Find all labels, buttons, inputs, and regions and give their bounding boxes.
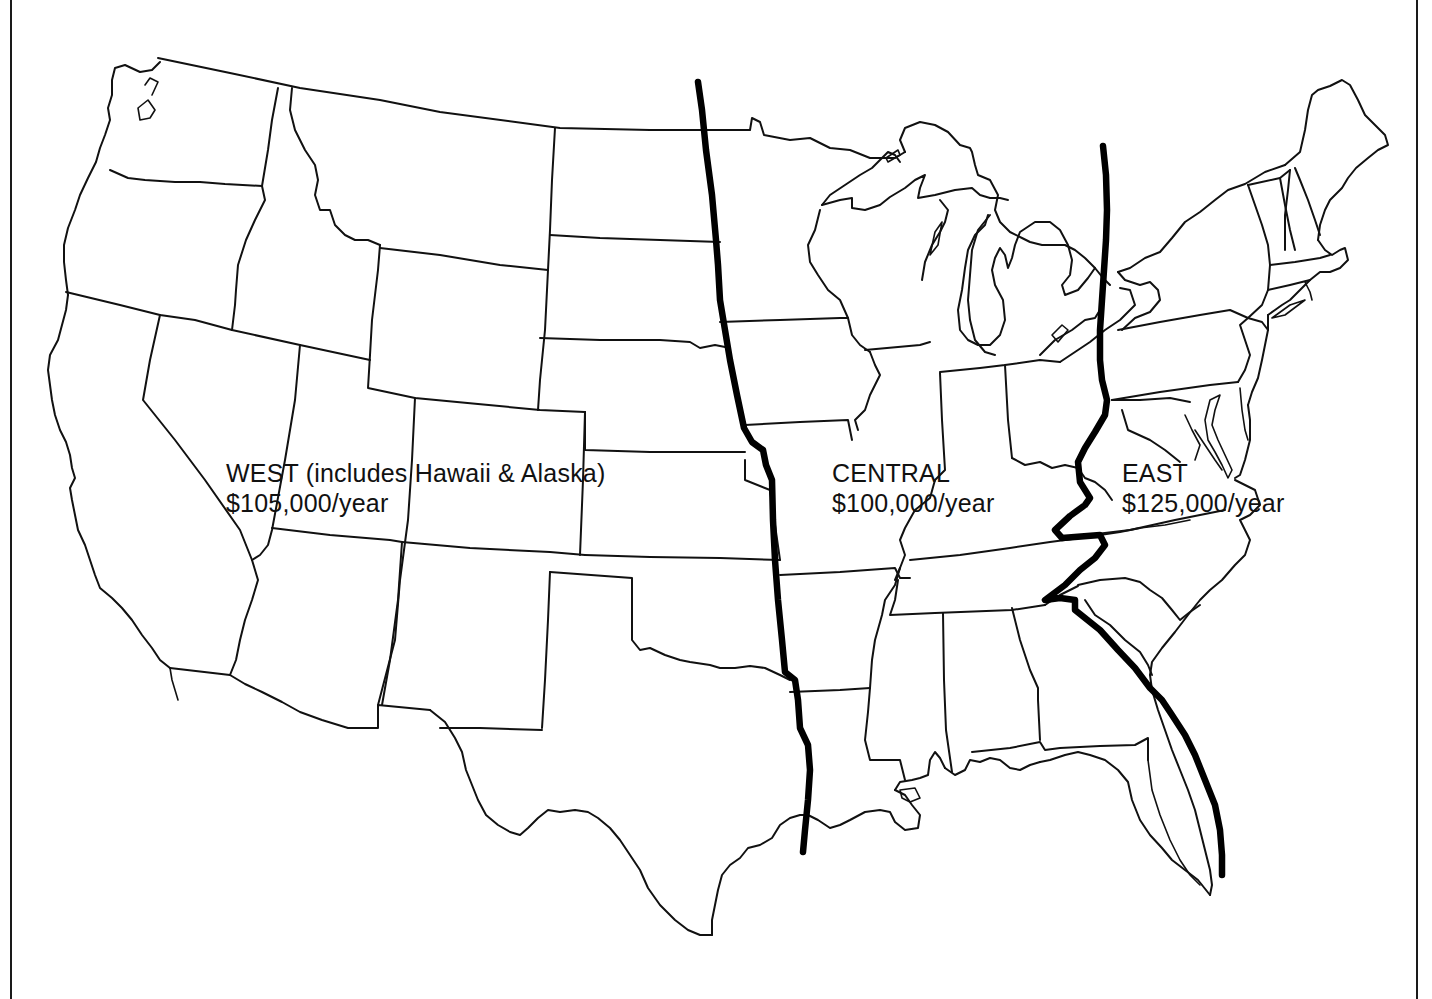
region-name: WEST (includes Hawaii & Alaska) xyxy=(226,458,605,488)
region-name: EAST xyxy=(1122,458,1284,488)
region-label-central: CENTRAL $100,000/year xyxy=(832,458,994,518)
west-central-divider xyxy=(698,82,810,852)
region-rate: $105,000/year xyxy=(226,488,605,518)
region-label-west: WEST (includes Hawaii & Alaska) $105,000… xyxy=(226,458,605,518)
region-rate: $125,000/year xyxy=(1122,488,1284,518)
region-label-east: EAST $125,000/year xyxy=(1122,458,1284,518)
region-rate: $100,000/year xyxy=(832,488,994,518)
region-name: CENTRAL xyxy=(832,458,994,488)
